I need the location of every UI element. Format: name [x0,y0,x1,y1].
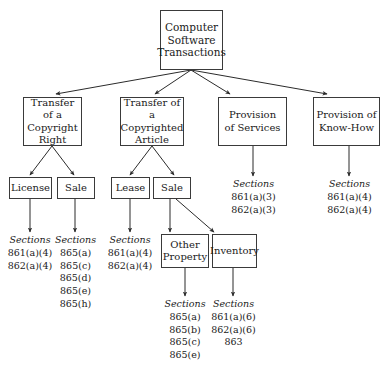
node-computer-software-transactions[interactable]: Computer Software Transactions [160,10,223,70]
node-lease[interactable]: Lease [111,177,150,199]
edge-copyright-right-to-license [30,146,52,175]
sections-other-property: Sections 865(a) 865(b) 865(c) 865(e) [158,298,212,362]
section-code: 862(a)(6) [206,324,261,337]
node-transfer-copyrighted-article[interactable]: Transfer of a Copyrighted Article [120,97,184,146]
edge-article-sale-to-inventory [176,199,214,232]
section-code: 865(a) [49,247,102,260]
sections-heading: Sections [103,234,157,247]
edge-root-to-services [191,70,230,94]
node-label: Inventory [208,245,261,257]
node-label: Lease [114,182,148,194]
section-code: 863 [206,336,261,349]
node-label: Transfer of a Copyright Right [24,97,81,146]
node-label: Other Property [161,239,209,263]
node-label: Sale [159,182,185,194]
node-license[interactable]: License [9,177,52,199]
node-provision-of-know-how[interactable]: Provision of Know-How [313,97,380,146]
sections-heading: Sections [158,298,212,311]
node-label: Sale [63,182,89,194]
edge-root-to-copyright-right [56,70,191,94]
section-code: 865(b) [158,324,212,337]
sections-copyright-sale: Sections 865(a) 865(c) 865(d) 865(e) 865… [49,234,102,311]
edge-copyrighted-article-to-sale [152,146,174,175]
sections-heading: Sections [49,234,102,247]
edge-copyrighted-article-to-lease [130,146,152,175]
node-label: Provision of Services [223,109,283,133]
section-code: 862(a)(4) [103,260,157,273]
node-label: Computer Software Transactions [155,21,228,59]
node-label: License [9,182,52,194]
node-other-property[interactable]: Other Property [161,234,209,268]
section-code: 861(a)(6) [206,311,261,324]
node-article-sale[interactable]: Sale [153,177,191,199]
sections-heading: Sections [206,298,261,311]
section-code: 865(c) [49,260,102,273]
sections-know-how: Sections 861(a)(4) 862(a)(4) [322,178,377,216]
section-code: 861(a)(3) [226,191,281,204]
node-transfer-copyright-right[interactable]: Transfer of a Copyright Right [23,97,82,146]
node-label: Transfer of a Copyrighted Article [119,97,186,146]
edge-root-to-know-how [191,70,327,94]
node-inventory[interactable]: Inventory [212,234,257,268]
section-code: 861(a)(4) [103,247,157,260]
edge-root-to-copyrighted-article [155,70,191,94]
edge-copyright-right-to-sale [52,146,74,175]
sections-inventory: Sections 861(a)(6) 862(a)(6) 863 [206,298,261,349]
section-code: 861(a)(4) [322,191,377,204]
sections-services: Sections 861(a)(3) 862(a)(3) [226,178,281,216]
sections-lease: Sections 861(a)(4) 862(a)(4) [103,234,157,272]
node-copyright-sale[interactable]: Sale [57,177,95,199]
section-code: 865(h) [49,298,102,311]
section-code: 865(d) [49,272,102,285]
section-code: 865(e) [158,349,212,362]
node-label: Provision of Know-How [314,109,378,133]
section-code: 865(e) [49,285,102,298]
node-provision-of-services[interactable]: Provision of Services [218,97,287,146]
section-code: 862(a)(3) [226,204,281,217]
section-code: 862(a)(4) [322,204,377,217]
software-transactions-flowchart: Computer Software Transactions Transfer … [0,0,383,373]
sections-heading: Sections [226,178,281,191]
section-code: 865(a) [158,311,212,324]
sections-heading: Sections [322,178,377,191]
section-code: 865(c) [158,336,212,349]
